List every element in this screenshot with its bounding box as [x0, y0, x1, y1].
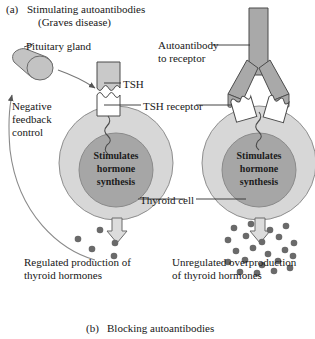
hormone-dot [271, 268, 278, 275]
hormone-dot [231, 225, 238, 232]
hormone-dot [282, 247, 289, 254]
label-negative-feedback-line3: control [12, 126, 43, 138]
autoantibody-icon [228, 8, 289, 107]
hormone-dot [225, 237, 232, 244]
figure-root: (a) Stimulating autoantibodies (Graves d… [0, 0, 315, 339]
hormone-dot [75, 236, 82, 243]
nucleus-text-left-line1: Stimulates [76, 150, 156, 161]
hormone-dot [97, 227, 104, 234]
nucleus-text-left-line2: hormone [76, 163, 156, 174]
label-autoantibody-line2: to receptor [158, 52, 205, 64]
nucleus-text-right-line1: Stimulates [219, 150, 299, 161]
label-tsh: TSH [123, 78, 144, 90]
label-autoantibody-line1: Autoantibody [158, 39, 219, 51]
caption-left-line1: Regulated production of [24, 256, 131, 268]
label-negative-feedback-line2: feedback [12, 113, 52, 125]
panel-b-title-line1: Blocking autoantibodies [107, 322, 214, 334]
hormone-dot [89, 246, 96, 253]
pituitary-to-tsh-arrow-icon [58, 70, 95, 88]
hormone-dot [291, 240, 298, 247]
label-tsh-receptor: TSH receptor [143, 100, 203, 112]
hormone-dot [283, 223, 290, 230]
hormone-dot [259, 239, 266, 246]
panel-a-title-line2: (Graves disease) [38, 16, 111, 28]
label-negative-feedback-line1: Negative [12, 100, 52, 112]
hormone-dot [233, 248, 240, 255]
hormone-dot [112, 240, 119, 247]
secretion-arrow-left-icon [107, 218, 127, 243]
label-thyroid-cell: Thyroid cell [140, 194, 194, 206]
hormone-dot [276, 234, 283, 241]
hormone-dot [250, 245, 257, 252]
caption-right-line2: of thyroid hormones [172, 269, 262, 281]
panel-a-marker: (a) [6, 3, 18, 15]
label-pituitary-gland: Pituitary gland [26, 40, 91, 52]
caption-left-line2: thyroid hormones [24, 269, 102, 281]
pituitary-gland-icon [13, 49, 53, 80]
hormone-dot [267, 227, 274, 234]
nucleus-text-right-line3: synthesis [219, 176, 299, 187]
tsh-molecule-icon [97, 62, 120, 91]
nucleus-text-left-line3: synthesis [76, 176, 156, 187]
panel-b-marker: (b) [86, 322, 99, 334]
hormone-dot [248, 221, 255, 228]
hormone-dot [243, 233, 250, 240]
nucleus-text-right-line2: hormone [219, 163, 299, 174]
panel-a-title-line1: Stimulating autoantibodies [27, 3, 145, 15]
caption-right-line1: Unregulated overproduction [172, 256, 296, 268]
